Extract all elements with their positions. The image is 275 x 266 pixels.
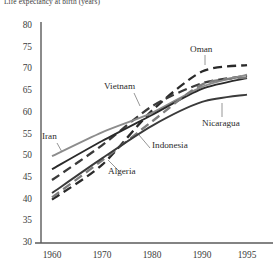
y-tick-50: 50 [10, 150, 32, 160]
y-tick-45: 45 [10, 172, 32, 182]
y-tick-55: 55 [10, 129, 32, 139]
series-label-vietnam: Vietnam [104, 81, 135, 91]
y-tick-80: 80 [10, 20, 32, 30]
series-line-nicaragua [52, 95, 247, 194]
series-label-nicaragua: Nicaragua [202, 118, 240, 128]
leader-line-indonesia [139, 135, 150, 148]
leader-line-iran [57, 143, 62, 152]
series-label-oman: Oman [190, 44, 212, 54]
x-tick-1960: 1960 [32, 250, 72, 260]
y-tick-40: 40 [10, 194, 32, 204]
x-tick-1995: 1995 [227, 250, 267, 260]
series-label-algeria: Algeria [108, 166, 136, 176]
y-tick-65: 65 [10, 85, 32, 95]
y-tick-60: 60 [10, 107, 32, 117]
life-expectancy-chart: Life expectancy at birth (years) 3035404… [0, 0, 275, 266]
x-tick-1980: 1980 [132, 250, 172, 260]
series-label-indonesia: Indonesia [152, 140, 188, 150]
y-tick-30: 30 [10, 237, 32, 247]
series-label-iran: Iran [42, 131, 57, 141]
leader-line-vietnam [134, 93, 140, 106]
y-tick-35: 35 [10, 215, 32, 225]
y-tick-70: 70 [10, 63, 32, 73]
x-tick-1970: 1970 [82, 250, 122, 260]
y-tick-75: 75 [10, 42, 32, 52]
x-tick-1990: 1990 [182, 250, 222, 260]
